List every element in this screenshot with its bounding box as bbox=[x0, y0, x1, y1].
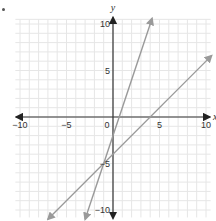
x-tick-label: 10 bbox=[201, 120, 211, 130]
x-tick-label: −5 bbox=[61, 120, 71, 130]
y-tick-label: −5 bbox=[100, 159, 110, 169]
x-tick-label: 5 bbox=[157, 120, 162, 130]
y-axis-label: y bbox=[110, 2, 116, 13]
axes bbox=[16, 17, 209, 218]
x-tick-label: 0 bbox=[104, 120, 109, 130]
tick-labels: −10−50510105−5−10xy bbox=[12, 2, 216, 215]
coordinate-plane: −10−50510105−5−10xy bbox=[0, 0, 216, 221]
x-axis-label: x bbox=[212, 111, 216, 122]
y-tick-label: −10 bbox=[95, 205, 110, 215]
x-tick-label: −10 bbox=[12, 120, 27, 130]
y-tick-label: 5 bbox=[105, 66, 110, 76]
graph-line bbox=[85, 18, 152, 219]
y-tick-label: 10 bbox=[100, 19, 110, 29]
